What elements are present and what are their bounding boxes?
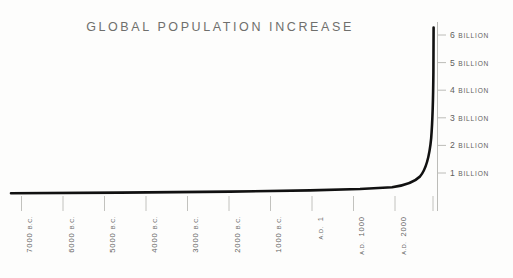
y-tick-label: 3 BILLION	[450, 113, 489, 123]
x-tick-label: 6000 B.C.	[67, 216, 76, 253]
x-tick-label: A.D. 1	[316, 216, 325, 239]
chart-figure: GLOBAL POPULATION INCREASE	[0, 0, 513, 278]
x-tick-label: A.D. 2000	[399, 216, 408, 255]
y-tick-label: 1 BILLION	[450, 168, 489, 178]
x-tick-label: A.D. 1000	[357, 216, 366, 255]
x-tick-label: 5000 B.C.	[108, 216, 117, 253]
population-curve	[11, 28, 434, 194]
x-tick-label: 7000 B.C.	[25, 216, 34, 253]
y-tick-label: 4 BILLION	[450, 85, 489, 95]
y-axis-ticks	[438, 35, 447, 173]
x-tick-label: 3000 B.C.	[191, 216, 200, 253]
y-tick-label: 5 BILLION	[450, 58, 489, 68]
plot-area	[0, 0, 513, 278]
x-tick-label: 1000 B.C.	[274, 216, 283, 253]
x-axis-ticks	[22, 196, 434, 211]
y-tick-label: 2 BILLION	[450, 140, 489, 150]
x-tick-label: 2000 B.C.	[233, 216, 242, 253]
x-tick-label: 4000 B.C.	[150, 216, 159, 253]
y-tick-label: 6 BILLION	[450, 30, 489, 40]
